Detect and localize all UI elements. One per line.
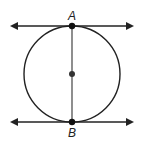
label-a: A — [67, 9, 76, 23]
label-b: B — [68, 126, 76, 140]
tangent-circle-diagram: A B — [0, 0, 141, 145]
point-a — [69, 23, 75, 29]
point-b — [69, 119, 75, 125]
center-point — [69, 71, 75, 77]
